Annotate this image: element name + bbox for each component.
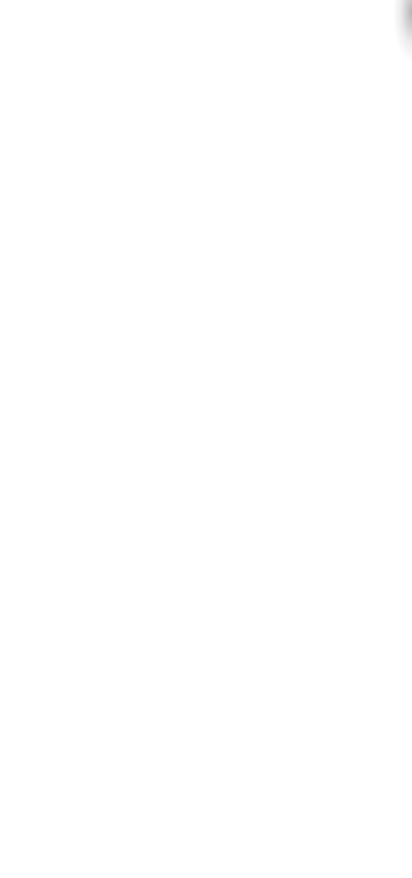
book-page	[0, 0, 412, 878]
decorative-border-left	[8, 21, 20, 878]
decorative-ruler-ticks	[36, 870, 412, 876]
decorative-border-top	[8, 9, 412, 21]
